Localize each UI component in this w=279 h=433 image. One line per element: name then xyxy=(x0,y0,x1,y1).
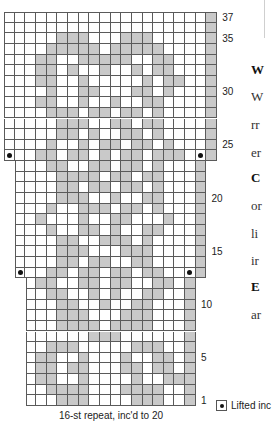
main-stitch-cell xyxy=(111,161,122,172)
contrast-stitch-cell xyxy=(79,385,90,396)
main-stitch-cell xyxy=(143,278,154,289)
chart-row-20 xyxy=(15,193,207,204)
contrast-stitch-cell xyxy=(57,321,68,332)
main-stitch-cell xyxy=(26,300,37,311)
contrast-stitch-cell xyxy=(153,65,164,76)
main-stitch-cell xyxy=(174,182,185,193)
main-stitch-cell xyxy=(174,353,185,364)
main-stitch-cell xyxy=(25,214,36,225)
main-stitch-cell xyxy=(68,204,79,215)
chart-row-1 xyxy=(26,395,196,406)
contrast-stitch-cell xyxy=(89,204,100,215)
contrast-stitch-cell xyxy=(153,97,164,108)
contrast-stitch-cell xyxy=(100,161,111,172)
main-stitch-cell xyxy=(153,332,164,343)
main-stitch-cell xyxy=(36,236,47,247)
main-stitch-cell xyxy=(4,97,15,108)
main-stitch-cell xyxy=(4,150,15,161)
contrast-stitch-cell xyxy=(68,385,79,396)
main-stitch-cell xyxy=(121,300,132,311)
main-stitch-cell xyxy=(132,55,143,66)
contrast-stitch-cell xyxy=(79,353,90,364)
main-stitch-cell xyxy=(25,257,36,268)
contrast-stitch-cell xyxy=(153,193,164,204)
main-stitch-cell xyxy=(164,129,175,140)
main-stitch-cell xyxy=(47,310,58,321)
main-stitch-cell xyxy=(25,12,36,23)
contrast-stitch-cell xyxy=(185,374,196,385)
main-stitch-cell xyxy=(132,76,143,87)
contrast-stitch-cell xyxy=(36,353,47,364)
main-stitch-cell xyxy=(174,236,185,247)
contrast-stitch-cell xyxy=(153,108,164,119)
chart-row-15 xyxy=(15,246,207,257)
contrast-stitch-cell xyxy=(57,385,68,396)
main-stitch-cell xyxy=(196,129,207,140)
contrast-stitch-cell xyxy=(132,65,143,76)
contrast-stitch-cell xyxy=(121,204,132,215)
main-stitch-cell xyxy=(164,193,175,204)
main-stitch-cell xyxy=(57,353,68,364)
main-stitch-cell xyxy=(196,119,207,130)
contrast-stitch-cell xyxy=(185,385,196,396)
main-stitch-cell xyxy=(25,236,36,247)
main-stitch-cell xyxy=(121,12,132,23)
main-stitch-cell xyxy=(111,33,122,44)
main-stitch-cell xyxy=(185,214,196,225)
contrast-stitch-cell xyxy=(57,342,68,353)
main-stitch-cell xyxy=(111,182,122,193)
contrast-stitch-cell xyxy=(89,278,100,289)
contrast-stitch-cell xyxy=(164,363,175,374)
main-stitch-cell xyxy=(89,76,100,87)
main-stitch-cell xyxy=(36,33,47,44)
main-stitch-cell xyxy=(15,65,26,76)
main-stitch-cell xyxy=(100,321,111,332)
contrast-stitch-cell xyxy=(111,44,122,55)
contrast-stitch-cell xyxy=(47,289,58,300)
main-stitch-cell xyxy=(111,257,122,268)
contrast-stitch-cell xyxy=(164,65,175,76)
main-stitch-cell xyxy=(26,321,37,332)
side-text-line: W xyxy=(251,62,264,78)
contrast-stitch-cell xyxy=(57,33,68,44)
main-stitch-cell xyxy=(174,204,185,215)
contrast-stitch-cell xyxy=(121,172,132,183)
contrast-stitch-cell xyxy=(143,76,154,87)
contrast-stitch-cell xyxy=(68,119,79,130)
main-stitch-cell xyxy=(68,76,79,87)
contrast-stitch-cell xyxy=(132,150,143,161)
main-stitch-cell xyxy=(79,129,90,140)
main-stitch-cell xyxy=(68,353,79,364)
contrast-stitch-cell xyxy=(143,33,154,44)
main-stitch-cell xyxy=(196,12,207,23)
main-stitch-cell xyxy=(121,225,132,236)
contrast-stitch-cell xyxy=(68,300,79,311)
main-stitch-cell xyxy=(79,289,90,300)
main-stitch-cell xyxy=(47,300,58,311)
contrast-stitch-cell xyxy=(153,353,164,364)
main-stitch-cell xyxy=(25,97,36,108)
main-stitch-cell xyxy=(89,12,100,23)
contrast-stitch-cell xyxy=(57,182,68,193)
contrast-stitch-cell xyxy=(79,193,90,204)
main-stitch-cell xyxy=(4,33,15,44)
main-stitch-cell xyxy=(174,108,185,119)
main-stitch-cell xyxy=(185,23,196,34)
contrast-stitch-cell xyxy=(121,108,132,119)
contrast-stitch-cell xyxy=(68,310,79,321)
contrast-stitch-cell xyxy=(196,257,207,268)
main-stitch-cell xyxy=(89,23,100,34)
contrast-stitch-cell xyxy=(185,342,196,353)
main-stitch-cell xyxy=(196,87,207,98)
contrast-stitch-cell xyxy=(153,182,164,193)
contrast-stitch-cell xyxy=(132,374,143,385)
main-stitch-cell xyxy=(79,300,90,311)
main-stitch-cell xyxy=(121,87,132,98)
contrast-stitch-cell xyxy=(89,161,100,172)
main-stitch-cell xyxy=(36,119,47,130)
main-stitch-cell xyxy=(111,76,122,87)
main-stitch-cell xyxy=(164,246,175,257)
main-stitch-cell xyxy=(100,278,111,289)
main-stitch-cell xyxy=(25,44,36,55)
main-stitch-cell xyxy=(26,289,37,300)
